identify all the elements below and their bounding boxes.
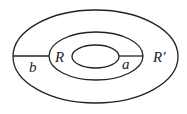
inner-ellipse (72, 45, 119, 68)
label-a: a (122, 56, 130, 72)
label-b: b (29, 59, 37, 75)
label-R: R (54, 49, 64, 65)
label-R-prime: R' (152, 49, 166, 65)
concentric-ellipses-diagram: b R a R' (0, 0, 187, 114)
